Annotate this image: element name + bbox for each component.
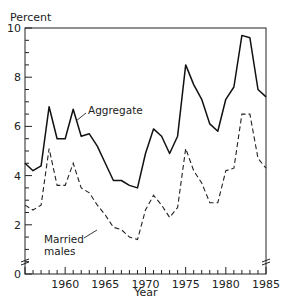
married-males-leader-line	[84, 230, 97, 238]
y-tick-label: 0	[14, 268, 21, 281]
x-axis-ticks	[25, 267, 266, 274]
y-tick-label: 8	[14, 71, 21, 84]
aggregate-label: Aggregate	[88, 104, 143, 116]
x-tick-label: 1980	[212, 278, 240, 291]
aggregate-leader-line	[76, 113, 86, 121]
x-tick-label: 1985	[252, 278, 280, 291]
x-tick-label: 1965	[91, 278, 119, 291]
series-married-males-line	[25, 114, 266, 240]
y-tick-label: 2	[14, 219, 21, 232]
x-axis-tick-labels: 196019651970197519801985	[51, 278, 280, 291]
y-axis-tick-labels: 0246810	[7, 22, 21, 281]
series-aggregate-line	[25, 35, 266, 188]
married-males-label-line2: males	[44, 245, 76, 257]
x-tick-label: 1975	[172, 278, 200, 291]
y-axis-ticks	[25, 28, 32, 274]
married-males-label-line1: Married	[44, 233, 84, 245]
y-tick-label: 10	[7, 22, 21, 35]
axis-break-icon	[21, 259, 270, 265]
y-tick-label: 4	[14, 170, 21, 183]
y-tick-label: 6	[14, 120, 21, 133]
x-tick-label: 1960	[51, 278, 79, 291]
x-tick-label: 1970	[132, 278, 160, 291]
line-chart: Percent Year 0246810 1960196519701975198…	[0, 0, 288, 305]
